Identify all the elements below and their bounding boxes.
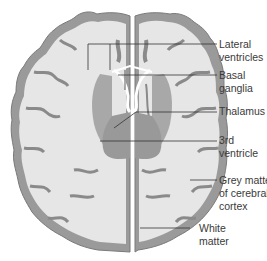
label-white-matter: White matter <box>199 222 229 248</box>
label-grey-matter: Grey matter of cerebral cortex <box>219 174 267 213</box>
label-line: Basal <box>219 69 253 82</box>
label-line: ventricles <box>219 51 263 64</box>
label-line: Grey matter <box>219 174 267 187</box>
label-lateral-ventricles: Lateral ventricles <box>219 38 263 64</box>
label-third-ventricle: 3rd ventricle <box>219 134 258 160</box>
label-basal-ganglia: Basal ganglia <box>219 69 253 95</box>
label-line: ganglia <box>219 82 253 95</box>
label-line: ventricle <box>219 147 258 160</box>
label-thalamus: Thalamus <box>219 105 265 118</box>
label-line: 3rd <box>219 134 258 147</box>
label-line: Thalamus <box>219 105 265 118</box>
label-line: Lateral <box>219 38 263 51</box>
label-line: matter <box>199 235 229 248</box>
label-line: of cerebral <box>219 187 267 200</box>
label-line: White <box>199 222 229 235</box>
label-line: cortex <box>219 200 267 213</box>
